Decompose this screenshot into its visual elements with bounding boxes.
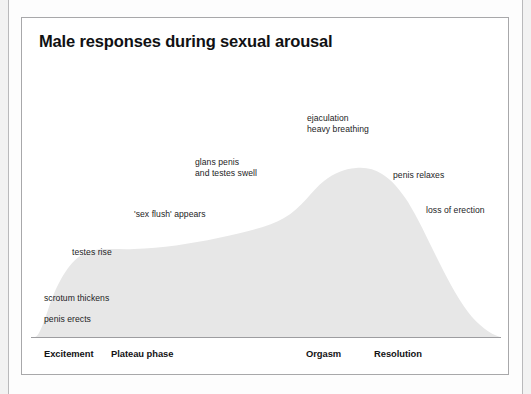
annotation-glans-penis-testes-swell: glans penis and testes swell (195, 157, 257, 178)
annotation-penis-relaxes: penis relaxes (393, 170, 444, 181)
figure-frame: Male responses during sexual arousal pen… (21, 17, 509, 375)
page-edge-left-rule (8, 0, 9, 394)
arousal-curve-chart (22, 18, 510, 376)
annotation-scrotum-thickens: scrotum thickens (44, 293, 109, 304)
annotation-penis-erects: penis erects (44, 314, 91, 325)
plot-area: penis erects scrotum thickens testes ris… (22, 18, 510, 376)
page-edge-right-rule (522, 0, 523, 394)
scanned-page: Male responses during sexual arousal pen… (0, 0, 531, 394)
annotation-loss-of-erection: loss of erection (426, 205, 485, 216)
phase-label-plateau-phase: Plateau phase (111, 348, 173, 359)
chart-baseline-rule (31, 337, 501, 338)
annotation-sex-flush-appears: 'sex flush' appears (134, 209, 206, 220)
phase-label-excitement: Excitement (44, 348, 94, 359)
annotation-testes-rise: testes rise (72, 247, 112, 258)
annotation-ejaculation-heavy-breathing: ejaculation heavy breathing (307, 113, 369, 134)
page-gutter-left (0, 0, 8, 394)
phase-label-resolution: Resolution (374, 348, 422, 359)
phase-label-orgasm: Orgasm (306, 348, 341, 359)
page-gutter-right (523, 0, 531, 394)
